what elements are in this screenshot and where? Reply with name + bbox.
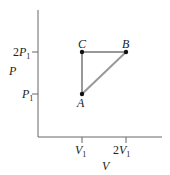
- point-label-b: B: [122, 37, 130, 51]
- point-label-c: C: [78, 37, 87, 51]
- y-tick-label-p1: P1: [21, 87, 33, 103]
- y-axis-label: P: [8, 64, 17, 78]
- point-label-a: A: [76, 96, 85, 110]
- path-a-b: [82, 52, 126, 94]
- x-axis-label: V: [102, 159, 111, 173]
- x-tick-label-v1: V1: [75, 143, 86, 159]
- y-tick-label-2p1: 2P1: [13, 45, 30, 61]
- x-tick-label-2v1: 2V1: [113, 143, 130, 159]
- pv-diagram: C B A 2P1 P1 P V1 2V1 V: [0, 0, 170, 175]
